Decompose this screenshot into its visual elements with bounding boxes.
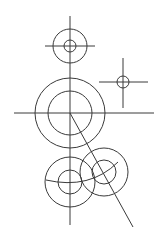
- bottom-right-gear: [80, 148, 128, 196]
- diagram-canvas: [0, 0, 166, 237]
- diagonal-centerline: [70, 113, 133, 227]
- gear-layout-drawing: [0, 0, 166, 237]
- bottom-right-gear-inner-circle: [92, 160, 116, 184]
- small-right-circle: [99, 58, 148, 108]
- bottom-right-gear-outer-circle: [80, 148, 128, 196]
